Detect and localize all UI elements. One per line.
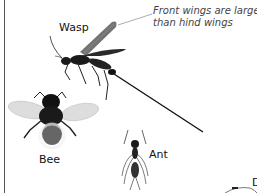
ant-label: Ant bbox=[149, 148, 168, 161]
callout-leader-line bbox=[118, 14, 152, 25]
ant-illustration bbox=[122, 130, 148, 190]
clipped-label: D bbox=[252, 176, 257, 189]
bee-label: Bee bbox=[39, 153, 60, 166]
callout-line-2: than hind wings bbox=[153, 17, 257, 29]
wasp-label: Wasp bbox=[59, 21, 89, 34]
bee-illustration bbox=[7, 92, 100, 148]
callout-line-1: Front wings are larger bbox=[153, 5, 257, 17]
wing-callout: Front wings are larger than hind wings bbox=[153, 5, 257, 28]
